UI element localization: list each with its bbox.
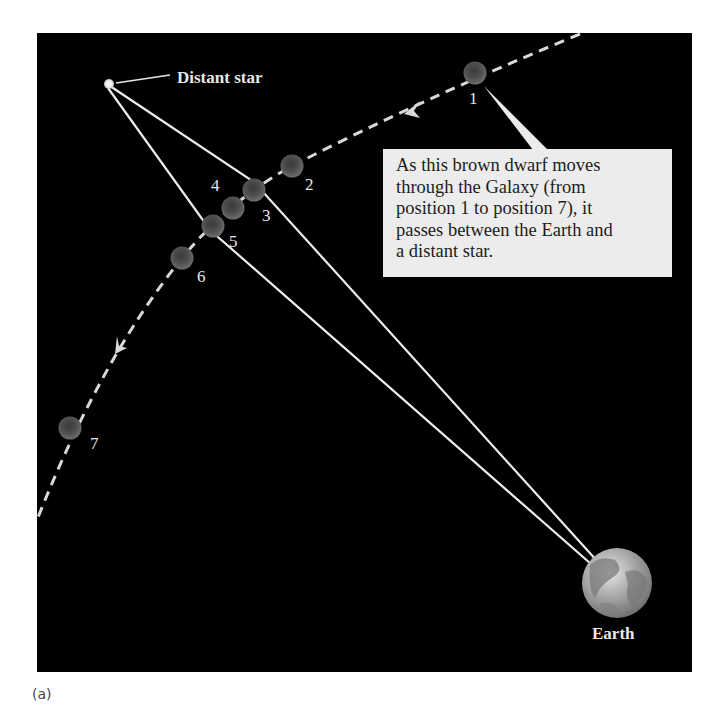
distant-star-icon xyxy=(104,79,114,89)
earth-icon xyxy=(582,548,652,618)
explanation-callout: As this brown dwarf moves through the Ga… xyxy=(383,149,672,277)
distant-star-label: Distant star xyxy=(177,69,262,86)
callout-line: passes between the Earth and xyxy=(396,220,662,242)
callout-line: a distant star. xyxy=(396,241,662,263)
brown-dwarf-2 xyxy=(281,155,304,178)
brown-dwarf-5 xyxy=(202,215,225,238)
position-label-5: 5 xyxy=(229,233,238,250)
brown-dwarf-6 xyxy=(171,247,194,270)
position-label-1: 1 xyxy=(469,90,478,107)
brown-dwarf-4 xyxy=(222,197,245,220)
brown-dwarf-7 xyxy=(59,417,82,440)
brown-dwarf-3 xyxy=(243,179,266,202)
figure-panel-caption: (a) xyxy=(32,686,52,702)
position-label-7: 7 xyxy=(90,435,99,452)
diagram-graphics xyxy=(0,0,719,725)
callout-line: through the Galaxy (from xyxy=(396,177,662,199)
position-label-4: 4 xyxy=(211,177,220,194)
brown-dwarf-trajectory xyxy=(37,34,580,520)
star-label-leader xyxy=(116,75,170,83)
position-label-6: 6 xyxy=(197,268,206,285)
earth-label: Earth xyxy=(592,625,635,642)
callout-line: position 1 to position 7), it xyxy=(396,198,662,220)
brown-dwarf-microlensing-figure: 1 2 3 4 5 6 7 Distant star Earth As this… xyxy=(0,0,719,725)
callout-line: As this brown dwarf moves xyxy=(396,155,662,177)
position-label-2: 2 xyxy=(305,176,314,193)
brown-dwarf-1 xyxy=(464,62,487,85)
callout-pointer xyxy=(484,86,548,150)
position-label-3: 3 xyxy=(262,207,271,224)
